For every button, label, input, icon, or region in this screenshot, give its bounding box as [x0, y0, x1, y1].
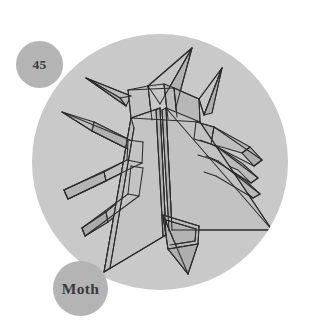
plate-page: 45 Moth	[0, 0, 314, 332]
plate-title-label: Moth	[62, 280, 99, 298]
plate-number-label: 45	[32, 57, 46, 73]
plate-title-badge: Moth	[53, 261, 108, 316]
plate-number-badge: 45	[16, 41, 63, 88]
